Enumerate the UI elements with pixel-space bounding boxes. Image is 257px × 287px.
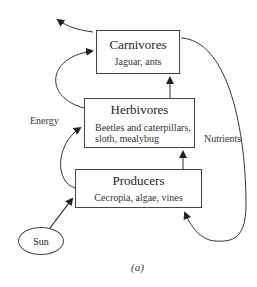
herbivores-title: Herbivores (85, 103, 194, 117)
carnivores-examples: Jaguar, ants (97, 56, 179, 67)
producers-box: Producers Cecropia, algae, vines (75, 169, 202, 208)
arrow-carnivores-out (58, 20, 93, 32)
figure-caption: (a) (131, 261, 144, 273)
herbivores-examples-line2: sloth, mealybug (85, 133, 194, 144)
arrow-sun-to-producers (50, 199, 72, 228)
producers-examples: Cecropia, algae, vines (76, 192, 201, 203)
sun-label: Sun (33, 236, 49, 247)
carnivores-box: Carnivores Jaguar, ants (96, 30, 180, 74)
sun-node: Sun (18, 227, 64, 255)
producers-title: Producers (76, 174, 201, 188)
nutrients-label: Nutrients (204, 133, 241, 144)
herbivores-box: Herbivores Beetles and caterpillars, slo… (84, 98, 195, 148)
carnivores-title: Carnivores (97, 38, 179, 52)
herbivores-examples-line1: Beetles and caterpillars, (85, 122, 194, 133)
energy-label: Energy (30, 115, 59, 126)
